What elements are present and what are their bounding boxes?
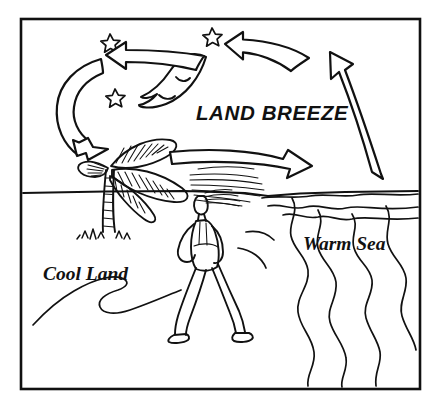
label-land-breeze: LAND BREEZE (196, 101, 349, 124)
diagram-canvas: LAND BREEZE Cool Land Warm Sea (0, 0, 441, 413)
surface-arrow-land-breeze (170, 150, 312, 178)
beach-path (33, 277, 181, 325)
label-cool-land: Cool Land (43, 263, 128, 284)
land-breeze-diagram: LAND BREEZE Cool Land Warm Sea (0, 0, 441, 413)
walking-person (168, 190, 252, 343)
label-warm-sea: Warm Sea (303, 233, 386, 254)
star-icon (106, 89, 125, 107)
star-icon (203, 28, 222, 46)
sinking-arrow-over-land-shaft (57, 59, 103, 155)
sinking-arrow-over-land-head (73, 138, 108, 160)
aloft-arrow-right (225, 32, 309, 71)
aloft-arrow-left (106, 42, 204, 70)
sea-waves (238, 194, 418, 387)
wind-streaks (190, 167, 264, 206)
